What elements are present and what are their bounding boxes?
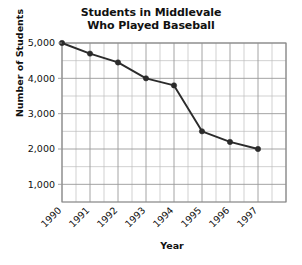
line-chart-svg: 5,0004,0003,0002,0001,000 19901991199219… <box>0 0 302 265</box>
chart-container: Students in Middlevale Who Played Baseba… <box>0 0 302 265</box>
data-point-marker <box>199 129 204 134</box>
data-point-marker <box>143 76 148 81</box>
data-point-marker <box>227 139 232 144</box>
data-point-marker <box>115 60 120 65</box>
x-tick-label: 1997 <box>235 205 260 230</box>
data-point-marker <box>87 51 92 56</box>
y-axis-tick-labels: 5,0004,0003,0002,0001,000 <box>28 37 62 189</box>
x-tick-label: 1994 <box>151 205 176 230</box>
plot-area: 5,0004,0003,0002,0001,000 19901991199219… <box>0 0 302 265</box>
x-tick-label: 1992 <box>95 205 120 230</box>
y-tick-label: 2,000 <box>28 143 55 154</box>
y-tick-label: 5,000 <box>28 37 55 48</box>
x-tick-label: 1996 <box>207 205 232 230</box>
x-tick-label: 1991 <box>67 205 92 230</box>
x-tick-label: 1995 <box>179 205 204 230</box>
x-tick-label: 1993 <box>123 205 148 230</box>
x-axis-tick-labels: 19901991199219931994199519961997 <box>39 205 260 230</box>
x-tick-label: 1990 <box>39 205 64 230</box>
y-tick-label: 4,000 <box>28 73 55 84</box>
data-point-marker <box>255 146 260 151</box>
data-point-marker <box>171 83 176 88</box>
y-tick-label: 3,000 <box>28 108 55 119</box>
y-tick-label: 1,000 <box>28 179 55 190</box>
major-gridlines <box>62 43 286 202</box>
